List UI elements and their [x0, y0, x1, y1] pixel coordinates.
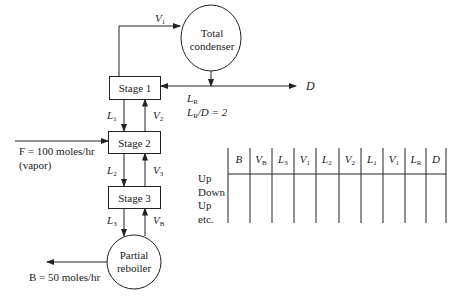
l2-sub: 2	[113, 170, 117, 178]
row-label-up: Up	[198, 172, 225, 186]
v2-main: V	[153, 109, 160, 121]
label-l2: L2	[107, 164, 117, 180]
l1-sub: 1	[113, 115, 117, 123]
th-sub: 1	[396, 159, 400, 167]
v2-sub: 2	[160, 115, 164, 123]
th-sub: 3	[284, 159, 288, 167]
v3-sub: 3	[160, 170, 164, 178]
label-l3: L3	[107, 214, 117, 230]
table-header-5: L2	[316, 153, 338, 167]
table-header-10: D	[426, 153, 446, 167]
row-label-etc: etc.	[198, 213, 225, 227]
vb-main: V	[153, 214, 160, 226]
stage-1-label: Stage 1	[119, 82, 152, 94]
th-sub: 2	[328, 159, 332, 167]
vb-sub: B	[160, 220, 165, 228]
v1-sub: 1	[162, 18, 166, 26]
th-main: D	[432, 153, 440, 165]
label-feed-phase: (vapor)	[19, 159, 51, 171]
label-reflux-ratio: LR/D = 2	[187, 106, 227, 122]
th-main: V	[300, 153, 307, 165]
stage-3-label: Stage 3	[118, 192, 151, 204]
table-header-1: B	[228, 153, 250, 167]
condenser-label-line1: Total	[184, 27, 240, 40]
table-header-6: V2	[339, 153, 361, 167]
condenser-label-line2: condenser	[184, 40, 240, 53]
stream-v1	[119, 26, 180, 76]
table-header-3: L3	[272, 153, 294, 167]
v1-main: V	[155, 12, 162, 24]
table-header-2: VB	[250, 153, 272, 167]
th-sub: 1	[373, 159, 377, 167]
stage-2-box: Stage 2	[108, 131, 161, 154]
l3-sub: 3	[113, 220, 117, 228]
lr-sub: R	[193, 98, 198, 106]
table-header-4: V1	[294, 153, 316, 167]
th-sub: R	[417, 159, 422, 167]
th-main: V	[389, 153, 396, 165]
rr-rest: /D = 2	[198, 106, 227, 118]
table-header-7: L1	[361, 153, 383, 167]
reboiler-label: Partial reboiler	[108, 249, 160, 275]
label-d: D	[306, 80, 315, 92]
stage-3-box: Stage 3	[108, 186, 161, 209]
label-vb: VB	[153, 214, 164, 230]
label-l1: L1	[107, 109, 117, 125]
th-main: V	[345, 153, 352, 165]
table-header-9: LR	[405, 153, 427, 167]
v3-main: V	[153, 164, 160, 176]
table-header-8: V1	[383, 153, 405, 167]
label-bottoms: B = 50 moles/hr	[29, 271, 100, 283]
table-row-labels: Up Down Up etc.	[198, 172, 225, 226]
label-v3: V3	[153, 164, 163, 180]
label-feed: F = 100 moles/hr	[19, 145, 95, 157]
reboiler-label-line1: Partial	[108, 249, 160, 262]
th-main: B	[236, 153, 243, 165]
condenser-label: Total condenser	[184, 27, 240, 53]
row-label-up-2: Up	[198, 199, 225, 213]
stage-2-label: Stage 2	[118, 137, 151, 149]
label-v2: V2	[153, 109, 163, 125]
label-v1: V1	[155, 12, 165, 28]
stage-1-box: Stage 1	[109, 76, 161, 100]
th-main: V	[255, 153, 262, 165]
th-sub: B	[262, 159, 267, 167]
row-label-down: Down	[198, 186, 225, 200]
th-sub: 1	[307, 159, 311, 167]
th-sub: 2	[352, 159, 356, 167]
reboiler-label-line2: reboiler	[108, 262, 160, 275]
